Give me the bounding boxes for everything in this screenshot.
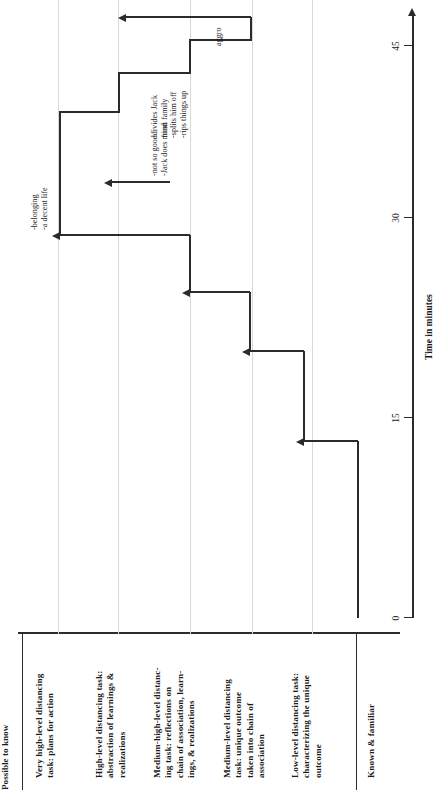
- step-segment: [357, 441, 359, 618]
- step-faller: [59, 111, 119, 113]
- step-segment: [118, 73, 120, 113]
- category-line: ing task: reflections on: [163, 638, 174, 778]
- category-line: task: unique outcome: [233, 653, 244, 778]
- step-segment: [59, 112, 61, 236]
- x-axis-title: Time in minutes: [424, 294, 434, 360]
- category-line: characterizing the unique: [301, 648, 312, 778]
- step-riser: [190, 291, 250, 293]
- step-segment: [303, 351, 305, 442]
- x-tick-0: [404, 617, 413, 618]
- step-segment: [250, 17, 252, 41]
- step-faller: [118, 72, 190, 74]
- step-riser: [112, 181, 170, 183]
- x-tick-label-30: 30: [391, 203, 401, 233]
- x-tick-30: [404, 217, 413, 218]
- y-axis-line: [18, 632, 400, 634]
- step-arrowhead-icon: [118, 14, 126, 22]
- step-riser: [126, 16, 251, 18]
- category-line: High-level distancing task:: [94, 645, 105, 778]
- step-chart: Possible to know Very high-level distanc…: [0, 0, 446, 790]
- step-segment: [189, 40, 191, 74]
- category-line: ings, & realizations: [186, 638, 197, 778]
- category-line: Very high-level distancing: [34, 650, 45, 778]
- category-line: realizations: [117, 645, 128, 778]
- category-line: chain of association, learn-: [175, 638, 186, 778]
- annotation-aggro: aggro: [214, 27, 224, 46]
- step-riser: [304, 440, 358, 442]
- step-riser: [250, 350, 304, 352]
- x-tick-label-0: 0: [391, 603, 401, 633]
- category-label-low-level: Low-level distancing task: characterizin…: [290, 648, 324, 778]
- rotated-figure-canvas: Possible to know Very high-level distanc…: [0, 0, 446, 790]
- x-axis-line: [412, 14, 414, 618]
- step-segment: [189, 235, 191, 293]
- top-rule: [22, 634, 23, 790]
- category-label-medium-high-level: Medium-high-level distanc- ing task: ref…: [152, 638, 198, 778]
- x-tick-15: [404, 417, 413, 418]
- category-label-medium-level: Medium-level distancing task: unique out…: [222, 653, 268, 778]
- gridline-level-5: [58, 0, 59, 634]
- gridline-level-3: [190, 0, 191, 634]
- category-line: taken into chain of: [245, 653, 256, 778]
- category-line: Medium-level distancing: [222, 653, 233, 778]
- category-line: Medium-high-level distanc-: [152, 638, 163, 778]
- category-line: task: plans for action: [45, 650, 56, 778]
- x-tick-45: [404, 45, 413, 46]
- figure-frame: Possible to know Very high-level distanc…: [0, 0, 446, 790]
- category-label-known-familiar: Known & familiar: [366, 658, 377, 778]
- category-label-high-level: High-level distancing task: abstraction …: [94, 645, 128, 778]
- step-segment: [249, 292, 251, 352]
- category-line: outcome: [313, 648, 324, 778]
- bottom-rule: [356, 634, 357, 790]
- gridline-level-2: [252, 0, 253, 634]
- step-riser: [60, 234, 190, 236]
- annotation-divides-jack: -divides Jack from family -splits him of…: [150, 91, 188, 138]
- x-tick-label-15: 15: [391, 403, 401, 433]
- axis-top-label: Possible to know: [0, 0, 10, 790]
- step-arrowhead-icon: [104, 179, 112, 187]
- gridline-level-1: [312, 0, 313, 634]
- category-line: abstraction of learnings &: [105, 645, 116, 778]
- category-label-very-high-level: Very high-level distancing task: plans f…: [34, 650, 57, 778]
- x-axis-arrowhead-icon: [408, 8, 416, 16]
- x-tick-label-45: 45: [391, 31, 401, 61]
- category-line: Low-level distancing task:: [290, 648, 301, 778]
- annotation-belonging: -belonging -a decent life: [30, 187, 49, 230]
- category-line: association: [256, 653, 267, 778]
